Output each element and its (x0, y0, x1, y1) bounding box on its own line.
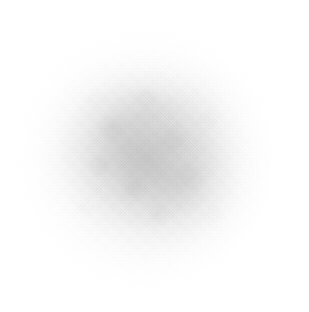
fine-grain-noise-texture (0, 0, 309, 312)
image-canvas (0, 0, 309, 312)
